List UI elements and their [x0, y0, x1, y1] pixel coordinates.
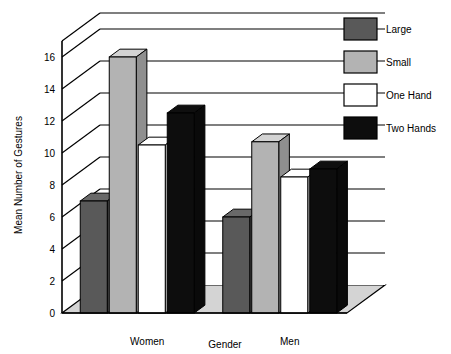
y-tick-label: 16 [44, 52, 56, 63]
y-tick-label: 8 [49, 180, 55, 191]
legend-label-large[interactable]: Large [386, 24, 412, 35]
bar-front-face [281, 177, 308, 313]
bar-front-face [109, 57, 136, 313]
legend-label-one-hand[interactable]: One Hand [386, 90, 432, 101]
bar-side-face [337, 161, 348, 313]
y-tick-label: 2 [49, 276, 55, 287]
y-tick-label: 4 [49, 244, 55, 255]
bar-two-hands-men [310, 161, 348, 313]
legend-swatch-two-hands[interactable] [344, 117, 377, 139]
bar-front-face [310, 169, 337, 313]
bar-two-hands-women [167, 105, 205, 313]
legend-swatch-large[interactable] [344, 18, 377, 40]
bar-front-face [223, 217, 250, 313]
y-tick-label: 0 [49, 308, 55, 319]
legend-label-small[interactable]: Small [386, 57, 411, 68]
y-tick-label: 10 [44, 148, 56, 159]
bar-front-face [167, 113, 194, 313]
bar-front-face [252, 142, 279, 313]
x-axis-title: Gender [208, 339, 242, 350]
x-tick-label-men: Men [280, 336, 299, 347]
bar-front-face [80, 201, 107, 313]
y-tick-label: 6 [49, 212, 55, 223]
legend-label-two-hands[interactable]: Two Hands [386, 123, 436, 134]
bar-front-face [138, 145, 165, 313]
y-tick-label: 14 [44, 84, 56, 95]
legend-swatch-small[interactable] [344, 51, 377, 73]
y-axis-title: Mean Number of Gestures [13, 116, 24, 234]
chart-canvas: 0246810121416 WomenMen LargeSmallOne Han… [0, 0, 451, 354]
legend-swatch-one-hand[interactable] [344, 84, 377, 106]
bar-side-face [194, 105, 205, 313]
y-tick-label: 12 [44, 116, 56, 127]
bar-chart-figure: 0246810121416 WomenMen LargeSmallOne Han… [0, 0, 451, 354]
x-tick-label-women: Women [130, 336, 164, 347]
